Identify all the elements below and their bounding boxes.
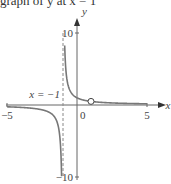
x-tick-label: 0 bbox=[80, 109, 86, 121]
asymptote-label: x = −1 bbox=[28, 88, 60, 100]
curve-left-branch bbox=[7, 107, 62, 177]
y-tick-label: −10 bbox=[56, 171, 74, 183]
y-axis-label: y bbox=[81, 5, 87, 17]
x-axis-label: x bbox=[165, 99, 171, 111]
x-tick-label: −5 bbox=[1, 109, 13, 121]
hole-point bbox=[88, 98, 94, 104]
y-tick-label: 10 bbox=[62, 27, 74, 39]
y-axis-arrow bbox=[74, 18, 80, 26]
chart: −50510−10xyx = −1 bbox=[0, 0, 171, 184]
x-tick-label: 5 bbox=[144, 109, 150, 121]
